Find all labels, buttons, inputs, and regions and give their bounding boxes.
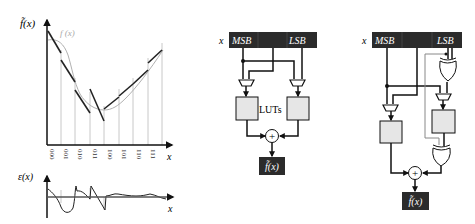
input-x-label-2: x — [361, 35, 367, 46]
tick-111: 111 — [149, 149, 157, 159]
approximation-plot: f̃(x) f (x) x 000 001 010 011 100 101 11… — [20, 17, 172, 162]
error-curve — [48, 186, 166, 212]
reference-curve — [48, 40, 163, 110]
lut-diagram-basic: x MSB LSB LUTs + f — [218, 32, 317, 175]
error-x-label: x — [167, 203, 173, 214]
tick-110: 110 — [135, 149, 143, 160]
mux-right-2 — [436, 94, 451, 100]
figure: f̃(x) f (x) x 000 001 010 011 100 101 11… — [0, 0, 475, 224]
input-x-label: x — [218, 35, 224, 46]
lsb-label: LSB — [288, 35, 306, 46]
curve-label: f (x) — [60, 28, 75, 38]
tick-000: 000 — [48, 149, 56, 160]
output-label: f̃(x) — [265, 160, 280, 173]
luts-label: LUTs — [259, 104, 282, 115]
mux-right — [290, 80, 305, 86]
lsb-label-2: LSB — [436, 35, 454, 46]
adder-symbol-2: + — [412, 167, 418, 179]
xor-gate-top — [440, 61, 457, 81]
grid-lines — [61, 43, 162, 145]
tick-101: 101 — [120, 149, 128, 160]
x-axis-label: x — [166, 151, 172, 162]
y-axis-label: f̃(x) — [20, 17, 36, 30]
tick-011: 011 — [91, 149, 99, 160]
lut-right — [287, 97, 309, 120]
output-label-2: f̃(x) — [409, 195, 424, 208]
xor-gate-bottom — [433, 148, 451, 166]
adder-symbol: + — [269, 130, 275, 142]
error-y-label: ε(x) — [18, 171, 34, 183]
error-plot: ε(x) x — [18, 171, 173, 218]
tick-100: 100 — [106, 149, 114, 160]
lut-left — [236, 97, 258, 120]
msb-label: MSB — [231, 35, 251, 46]
lut-left-2 — [380, 121, 402, 143]
lut-right-2 — [432, 110, 455, 133]
mux-left — [239, 80, 254, 86]
lut-diagram-symmetric: x MSB LSB — [361, 32, 462, 210]
mux-left-2 — [383, 105, 398, 111]
msb-label-2: MSB — [374, 35, 394, 46]
tick-labels: 000 001 010 011 100 101 110 111 — [48, 149, 157, 160]
tick-001: 001 — [62, 149, 70, 160]
tick-010: 010 — [76, 149, 84, 160]
